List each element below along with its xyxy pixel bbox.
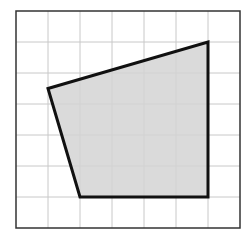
shaded-quadrilateral <box>48 42 208 197</box>
grid-diagram <box>0 0 248 239</box>
